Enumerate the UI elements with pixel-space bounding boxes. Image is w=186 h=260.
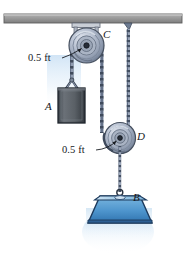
chain-strand-right: [127, 29, 130, 131]
block-a: [58, 88, 85, 123]
label-pulley-c: C: [103, 29, 110, 40]
chain-ceiling-to-d: [124, 23, 132, 131]
weight-b-base-band: [88, 220, 152, 223]
dimension-label-radius-d: 0.5 ft: [62, 145, 85, 156]
pulley-d-axle: [118, 136, 123, 141]
ceiling-beam: [4, 14, 182, 23]
dimension-label-radius-c: 0.5 ft: [28, 53, 51, 64]
ceiling-beam-highlight: [4, 14, 182, 16]
weight-b: [88, 196, 152, 223]
chain-strand-cd: [100, 45, 104, 133]
chain-ring-a: [70, 78, 74, 82]
pulley-c-axle: [84, 43, 89, 48]
block-a-body: [58, 88, 85, 123]
pulley-c: [69, 28, 104, 63]
figure-canvas: [0, 0, 186, 260]
label-block-a: A: [45, 101, 52, 112]
pulley-system-figure: C D A B 0.5 ft 0.5 ft: [0, 0, 186, 260]
weight-b-lug: [115, 196, 125, 200]
label-pulley-d: D: [137, 131, 145, 142]
cable-b-strand: [118, 146, 121, 192]
chain-anchor-hook: [124, 23, 132, 30]
block-a-top-highlight: [58, 88, 85, 91]
label-weight-b: B: [133, 192, 140, 203]
chain-c-to-d: [100, 45, 104, 133]
